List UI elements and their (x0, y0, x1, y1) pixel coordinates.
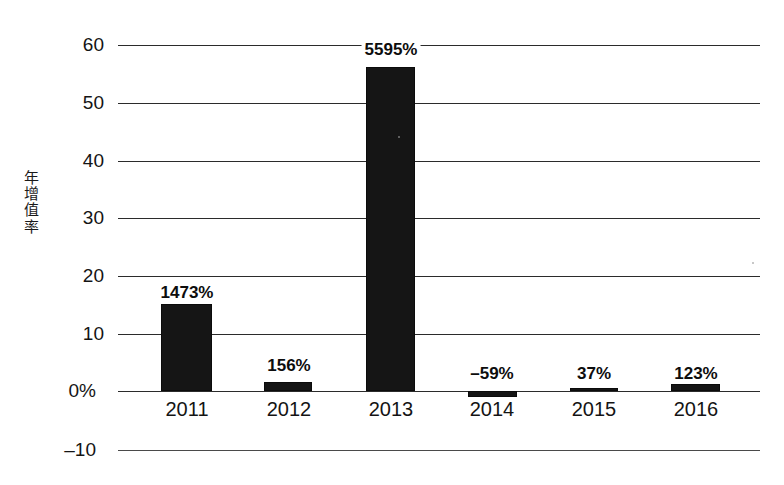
y-tick-label-20: 20 (48, 265, 104, 287)
x-tick-label-2011: 2011 (165, 398, 208, 421)
bar-2016 (671, 384, 720, 391)
x-tick-label-2016: 2016 (674, 398, 719, 421)
gridline-neg10 (118, 450, 760, 451)
gridline-zero-baseline (118, 391, 760, 392)
y-axis-title-char-3: 值 (18, 202, 44, 218)
y-axis-title-char-2: 增 (18, 186, 44, 202)
data-label-2011: 1473% (158, 283, 217, 303)
bar-2011 (161, 304, 212, 391)
bar-2012 (264, 382, 312, 391)
data-label-2015: 37% (574, 364, 614, 384)
data-label-2014: –59% (467, 364, 516, 384)
y-tick-label-0: 0% (40, 380, 96, 402)
gridline-30 (118, 218, 760, 219)
x-tick-label-2014: 2014 (470, 398, 515, 421)
bar-2013 (366, 67, 415, 391)
y-tick-label-neg10: –10 (40, 439, 96, 461)
scan-speck (752, 262, 754, 264)
x-tick-label-2015: 2015 (572, 398, 617, 421)
y-tick-label-50: 50 (48, 92, 104, 114)
y-tick-label-60: 60 (48, 34, 104, 56)
gridline-60 (118, 45, 760, 46)
x-tick-label-2013: 2013 (369, 398, 414, 421)
data-label-2012: 156% (264, 356, 313, 376)
gridline-50 (118, 103, 760, 104)
y-axis-title-char-4: 率 (18, 219, 44, 235)
y-tick-label-40: 40 (48, 150, 104, 172)
gridline-10 (118, 334, 760, 335)
gridline-40 (118, 161, 760, 162)
gridline-20 (118, 276, 760, 277)
bar-2014 (468, 391, 517, 397)
bar-2015 (570, 388, 618, 391)
y-tick-label-10: 10 (48, 323, 104, 345)
y-tick-label-30: 30 (48, 207, 104, 229)
y-axis-title-char-1: 年 (18, 170, 44, 186)
x-tick-label-2012: 2012 (267, 398, 312, 421)
scan-speck (398, 136, 400, 138)
data-label-2013: 5595% (362, 40, 421, 60)
y-axis-title: 年 增 值 率 (18, 170, 44, 235)
data-label-2016: 123% (671, 364, 720, 384)
bar-chart: 年 增 值 率 60 50 40 30 20 10 0% –10 1473% 1… (0, 0, 784, 485)
